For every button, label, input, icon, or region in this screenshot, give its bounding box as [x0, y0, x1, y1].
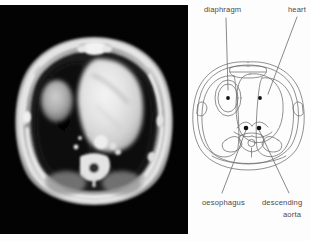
label-descending-aorta-line2: aorta	[283, 210, 301, 219]
figure-root: diaphragm heart oesophagus descending ao…	[0, 0, 311, 241]
leader-line-heart	[268, 17, 297, 94]
diagram-paraspinal-left	[222, 137, 242, 152]
marker-dot-heart	[258, 96, 262, 100]
diagram-left-lung	[256, 78, 293, 157]
leader-line-diaphragm	[226, 18, 228, 90]
ct-liver-dome	[41, 80, 73, 122]
label-oesophagus: oesophagus	[202, 198, 245, 207]
label-heart: heart	[288, 5, 306, 14]
leader-line-descending-aorta	[259, 130, 289, 193]
diagram-paraspinal-right	[262, 137, 282, 152]
diagram-sternum	[230, 65, 267, 78]
marker-dot-diaphragm	[226, 96, 230, 100]
label-diaphragm: diaphragm	[204, 5, 241, 14]
diagram-chest-wall	[198, 66, 299, 164]
ct-scan-image	[0, 5, 188, 234]
label-descending-aorta-line1: descending	[262, 198, 302, 207]
ct-descending-aorta	[94, 135, 108, 149]
diagram-heart-outline	[236, 74, 283, 143]
marker-dot-oesophagus	[244, 126, 249, 131]
ct-scan-panel	[0, 5, 188, 234]
diagram-spinal-canal	[248, 139, 255, 146]
marker-dot-descending-aorta	[257, 126, 262, 131]
diagram-right-lung	[202, 76, 239, 157]
